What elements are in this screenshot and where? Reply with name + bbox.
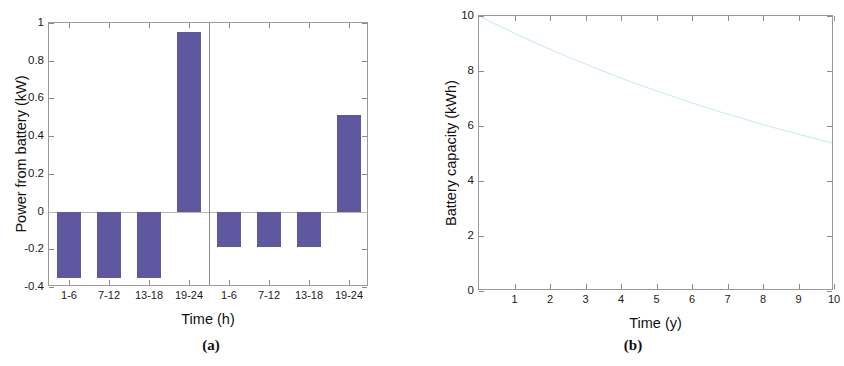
y-tick-b bbox=[479, 181, 484, 182]
y-tick-label-b: 0 bbox=[468, 285, 474, 297]
x-tick-label-a: 7-12 bbox=[258, 290, 280, 301]
x-tick-b bbox=[621, 284, 622, 289]
x-axis-title-b: Time (y) bbox=[478, 316, 833, 331]
x-tick-label-b: 9 bbox=[795, 294, 801, 305]
x-tick-b bbox=[586, 284, 587, 289]
x-tick-top-b bbox=[799, 16, 800, 21]
y-tick-right-b bbox=[827, 71, 832, 72]
x-tick-label-b: 8 bbox=[760, 294, 766, 305]
x-tick-a bbox=[69, 280, 70, 285]
bar-7-12-1 bbox=[97, 212, 122, 278]
y-tick-right-b bbox=[827, 181, 832, 182]
panel-caption-a: (a) bbox=[0, 338, 422, 353]
x-axis-title-a: Time (h) bbox=[48, 312, 368, 327]
y-axis-title-a: Power from battery (kW) bbox=[14, 75, 29, 232]
y-tick-label-a: 0 bbox=[38, 206, 44, 218]
x-tick-top-b bbox=[763, 16, 764, 21]
capacity-decay-curve bbox=[479, 16, 832, 289]
plot-area-a: 10.80.60.40.20-0.2-0.41-67-1213-1819-241… bbox=[48, 22, 368, 286]
x-tick-top-a bbox=[349, 23, 350, 28]
y-tick-right-b bbox=[827, 291, 832, 292]
y-tick-right-a bbox=[362, 23, 367, 24]
bar-13-18-6 bbox=[297, 212, 322, 248]
x-tick-a bbox=[349, 280, 350, 285]
x-tick-label-b: 10 bbox=[828, 294, 840, 305]
panel-a-bar-chart: 10.80.60.40.20-0.2-0.41-67-1213-1819-241… bbox=[0, 0, 422, 366]
y-tick-right-a bbox=[362, 98, 367, 99]
bar-13-18-2 bbox=[137, 212, 162, 278]
x-tick-label-a: 13-18 bbox=[295, 290, 323, 301]
x-tick-label-b: 4 bbox=[618, 294, 624, 305]
x-tick-b bbox=[763, 284, 764, 289]
x-tick-top-b bbox=[728, 16, 729, 21]
panel-caption-b: (b) bbox=[422, 338, 844, 353]
x-tick-b bbox=[550, 284, 551, 289]
x-tick-top-b bbox=[657, 16, 658, 21]
y-tick-right-b bbox=[827, 126, 832, 127]
y-tick-a bbox=[49, 98, 54, 99]
y-tick-label-a: 0.8 bbox=[28, 55, 44, 67]
y-tick-b bbox=[479, 16, 484, 17]
x-tick-top-b bbox=[621, 16, 622, 21]
y-tick-a bbox=[49, 23, 54, 24]
x-tick-label-b: 2 bbox=[547, 294, 553, 305]
x-tick-top-a bbox=[149, 23, 150, 28]
y-tick-label-a: 0.4 bbox=[28, 130, 44, 142]
x-tick-top-a bbox=[109, 23, 110, 28]
x-tick-top-a bbox=[309, 23, 310, 28]
y-tick-right-a bbox=[362, 249, 367, 250]
y-tick-right-b bbox=[827, 236, 832, 237]
x-tick-b bbox=[799, 284, 800, 289]
y-tick-label-b: 10 bbox=[461, 10, 474, 22]
y-tick-b bbox=[479, 126, 484, 127]
y-tick-a bbox=[49, 136, 54, 137]
y-tick-right-a bbox=[362, 136, 367, 137]
y-tick-label-a: -0.4 bbox=[24, 281, 44, 293]
y-tick-label-a: 1 bbox=[38, 17, 44, 29]
x-tick-a bbox=[149, 280, 150, 285]
x-tick-top-b bbox=[834, 16, 835, 21]
x-tick-top-b bbox=[550, 16, 551, 21]
x-tick-label-a: 1-6 bbox=[221, 290, 237, 301]
x-tick-top-a bbox=[189, 23, 190, 28]
x-tick-a bbox=[189, 280, 190, 285]
x-tick-label-a: 13-18 bbox=[135, 290, 163, 301]
x-tick-top-b bbox=[586, 16, 587, 21]
y-tick-right-a bbox=[362, 287, 367, 288]
bar-1-6-0 bbox=[57, 212, 82, 278]
y-tick-a bbox=[49, 61, 54, 62]
x-tick-top-b bbox=[515, 16, 516, 21]
y-tick-label-b: 6 bbox=[468, 120, 474, 132]
x-tick-label-a: 1-6 bbox=[61, 290, 77, 301]
y-tick-a bbox=[49, 249, 54, 250]
y-tick-a bbox=[49, 174, 54, 175]
y-tick-label-a: 0.2 bbox=[28, 168, 44, 180]
x-tick-a bbox=[309, 280, 310, 285]
x-tick-label-b: 1 bbox=[511, 294, 517, 305]
x-tick-a bbox=[229, 280, 230, 285]
x-tick-a bbox=[109, 280, 110, 285]
y-tick-right-a bbox=[362, 61, 367, 62]
x-tick-label-b: 5 bbox=[653, 294, 659, 305]
x-tick-label-a: 19-24 bbox=[175, 290, 203, 301]
x-tick-top-a bbox=[269, 23, 270, 28]
y-tick-b bbox=[479, 71, 484, 72]
x-tick-top-a bbox=[69, 23, 70, 28]
x-tick-label-b: 6 bbox=[689, 294, 695, 305]
y-tick-right-b bbox=[827, 16, 832, 17]
y-tick-label-a: -0.2 bbox=[24, 244, 44, 256]
x-tick-label-a: 7-12 bbox=[98, 290, 120, 301]
y-tick-label-b: 8 bbox=[468, 65, 474, 77]
group-separator-a bbox=[209, 23, 210, 285]
figure-root: 10.80.60.40.20-0.2-0.41-67-1213-1819-241… bbox=[0, 0, 844, 366]
x-tick-b bbox=[657, 284, 658, 289]
y-tick-b bbox=[479, 236, 484, 237]
y-tick-label-b: 4 bbox=[468, 175, 474, 187]
x-tick-label-b: 7 bbox=[724, 294, 730, 305]
panel-b-line-chart: 024681012345678910 Time (y) Battery capa… bbox=[422, 0, 844, 366]
y-tick-label-b: 2 bbox=[468, 230, 474, 242]
bar-1-6-4 bbox=[217, 212, 242, 248]
x-tick-top-b bbox=[692, 16, 693, 21]
bar-7-12-5 bbox=[257, 212, 282, 248]
x-tick-b bbox=[692, 284, 693, 289]
